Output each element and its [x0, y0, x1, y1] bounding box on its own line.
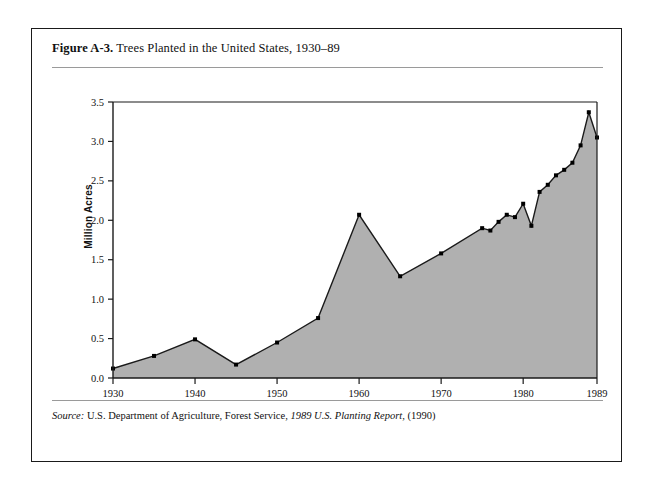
source-agency: U.S. Department of Agriculture, Forest S…	[87, 410, 288, 421]
area-fill	[113, 112, 597, 378]
y-axis-tick-label: 3.5	[91, 97, 104, 108]
x-axis-tick-label: 1970	[431, 388, 452, 399]
x-axis-tick-label: 1980	[513, 388, 534, 399]
x-axis-tick-label: 1940	[185, 388, 206, 399]
x-axis-tick-label: 1960	[349, 388, 370, 399]
data-point-marker	[480, 226, 484, 230]
y-axis-tick-label: 3.0	[91, 136, 104, 147]
figure-caption: Figure A-3. Trees Planted in the United …	[52, 41, 340, 56]
data-point-marker	[488, 229, 492, 233]
data-point-marker	[234, 363, 238, 367]
data-point-marker	[554, 173, 558, 177]
figure-title: Trees Planted in the United States, 1930…	[116, 41, 340, 55]
source-note: Source: U.S. Department of Agriculture, …	[52, 410, 435, 421]
data-point-marker	[111, 367, 115, 371]
data-point-marker	[152, 354, 156, 358]
x-axis-tick-label: 1930	[103, 388, 124, 399]
source-year: (1990)	[407, 410, 435, 421]
data-point-marker	[193, 337, 197, 341]
y-axis-tick-label: 0.0	[91, 373, 104, 384]
data-point-marker	[398, 274, 402, 278]
caption-divider-rule	[52, 67, 603, 68]
y-axis-tick-label: 2.0	[91, 215, 104, 226]
data-line	[113, 112, 597, 368]
x-axis-tick-label: 1989	[587, 388, 608, 399]
source-publication: 1989 U.S. Planting Report,	[290, 410, 404, 421]
data-point-marker	[497, 220, 501, 224]
data-point-marker	[595, 135, 599, 139]
data-point-marker	[521, 202, 525, 206]
y-axis-tick-label: 0.5	[91, 333, 104, 344]
data-point-marker	[275, 341, 279, 345]
y-axis-tick-label: 1.5	[91, 254, 104, 265]
source-prefix: Source:	[52, 410, 84, 421]
data-point-marker	[579, 143, 583, 147]
data-point-marker	[316, 316, 320, 320]
figure-box: Figure A-3. Trees Planted in the United …	[31, 28, 622, 462]
data-point-marker	[513, 215, 517, 219]
data-point-marker	[439, 251, 443, 255]
data-point-marker	[505, 213, 509, 217]
data-point-marker	[538, 190, 542, 194]
data-point-marker	[546, 183, 550, 187]
trees-planted-area-chart: 0.00.51.01.52.02.53.03.51930194019501960…	[32, 29, 623, 463]
source-divider-rule	[52, 400, 603, 401]
figure-page: Figure A-3. Trees Planted in the United …	[0, 0, 656, 490]
data-point-marker	[570, 161, 574, 165]
x-axis-tick-label: 1950	[267, 388, 288, 399]
data-point-marker	[357, 213, 361, 217]
data-point-marker	[562, 168, 566, 172]
y-axis-title: Million Acres	[83, 157, 94, 277]
figure-label: Figure A-3.	[52, 41, 113, 55]
y-axis-tick-label: 2.5	[91, 175, 104, 186]
data-point-marker	[529, 224, 533, 228]
data-point-marker	[587, 110, 591, 114]
chart-plot-area: Million Acres 0.00.51.01.52.02.53.03.519…	[32, 29, 623, 463]
y-axis-tick-label: 1.0	[91, 294, 104, 305]
